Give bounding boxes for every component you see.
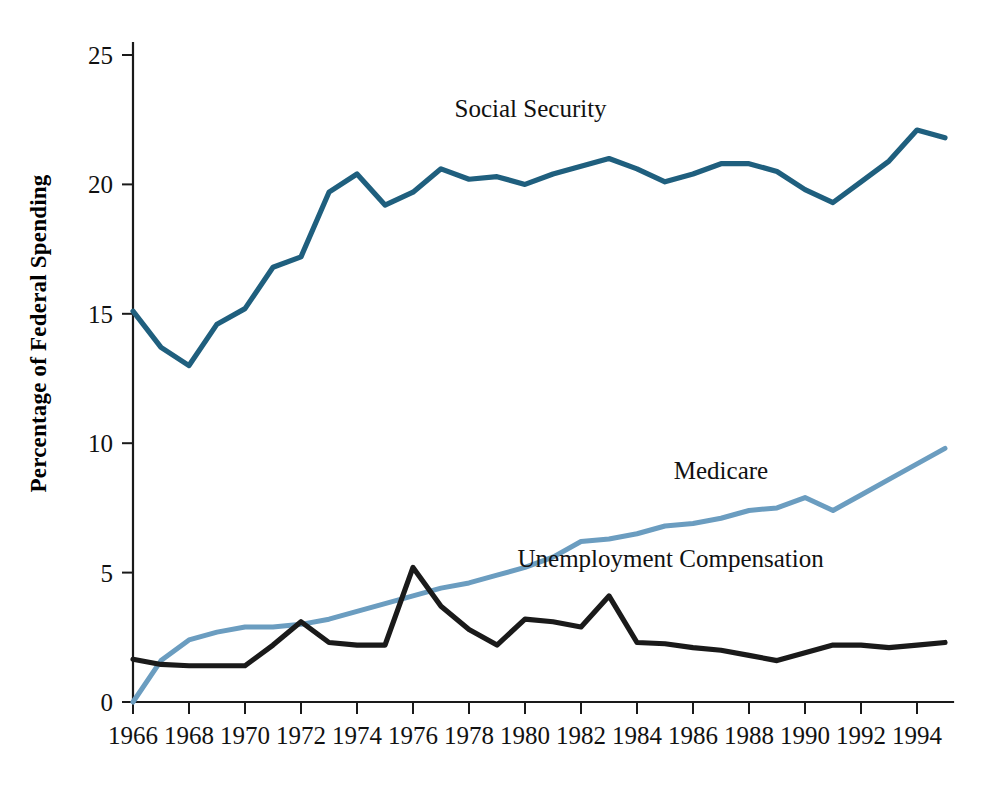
x-tick-label-1990: 1990 xyxy=(780,722,830,749)
x-tick-label-1968: 1968 xyxy=(164,722,214,749)
axis-ticks-group: 0510152025196619681970197219741976197819… xyxy=(88,42,943,749)
x-tick-label-1970: 1970 xyxy=(220,722,270,749)
series-line-social-security xyxy=(133,130,945,366)
x-tick-label-1988: 1988 xyxy=(724,722,774,749)
x-tick-label-1972: 1972 xyxy=(276,722,326,749)
x-tick-label-1974: 1974 xyxy=(332,722,383,749)
x-tick-label-1976: 1976 xyxy=(388,722,438,749)
x-tick-label-1978: 1978 xyxy=(444,722,494,749)
series-lines-group xyxy=(133,130,945,702)
series-label-medicare: Medicare xyxy=(674,457,768,484)
x-tick-label-1982: 1982 xyxy=(556,722,606,749)
line-chart: 0510152025196619681970197219741976197819… xyxy=(0,0,983,785)
series-label-unemployment-compensation: Unemployment Compensation xyxy=(517,545,824,572)
series-line-unemployment-compensation xyxy=(133,567,945,665)
y-tick-label-10: 10 xyxy=(88,430,113,457)
x-tick-label-1992: 1992 xyxy=(836,722,886,749)
y-axis-title: Percentage of Federal Spending xyxy=(26,174,51,492)
y-tick-label-20: 20 xyxy=(88,171,113,198)
x-tick-label-1966: 1966 xyxy=(108,722,158,749)
chart-page: 0510152025196619681970197219741976197819… xyxy=(0,0,983,785)
x-tick-label-1986: 1986 xyxy=(668,722,718,749)
y-tick-label-15: 15 xyxy=(88,301,113,328)
y-tick-label-25: 25 xyxy=(88,42,113,69)
y-axis-title-group: Percentage of Federal Spending xyxy=(26,174,51,492)
series-label-social-security: Social Security xyxy=(455,95,608,122)
x-tick-label-1980: 1980 xyxy=(500,722,550,749)
x-tick-label-1994: 1994 xyxy=(892,722,943,749)
series-line-medicare xyxy=(133,448,945,702)
axes-group xyxy=(133,43,953,702)
y-tick-label-5: 5 xyxy=(101,560,114,587)
y-tick-label-0: 0 xyxy=(101,689,114,716)
x-tick-label-1984: 1984 xyxy=(612,722,663,749)
